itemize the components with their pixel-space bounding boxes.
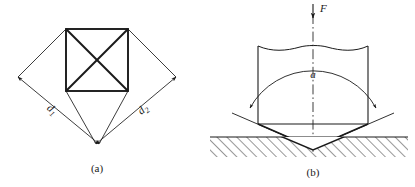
vickers-hardness-figure: d1 d2 (a) F bbox=[0, 0, 415, 187]
extension-lines bbox=[18, 29, 176, 144]
panel-a-group: d1 d2 (a) bbox=[18, 29, 176, 175]
dimension-line-d2 bbox=[96, 77, 176, 144]
diamond-lower-edges bbox=[18, 77, 99, 144]
ext-line-top-right bbox=[128, 29, 176, 77]
ext-line-left-lower bbox=[18, 77, 66, 91]
specimen-hatch-group bbox=[210, 136, 408, 159]
figure-root: d1 d2 (a) F bbox=[0, 0, 415, 187]
caption-b: (b) bbox=[307, 166, 320, 179]
d2-arrow-line bbox=[96, 77, 176, 144]
angle-label: a bbox=[310, 68, 316, 80]
force-label: F bbox=[319, 2, 327, 14]
ext-line-bottom-left bbox=[66, 91, 96, 144]
square-diagonals bbox=[66, 29, 128, 91]
d2-label-group: d2 bbox=[135, 101, 152, 118]
d2-label: d2 bbox=[135, 101, 152, 118]
ext-line-bottom-right bbox=[99, 91, 128, 144]
ext-line-top-left bbox=[18, 29, 66, 77]
panel-b-group: F a bbox=[210, 2, 408, 179]
caption-a: (a) bbox=[91, 162, 104, 175]
